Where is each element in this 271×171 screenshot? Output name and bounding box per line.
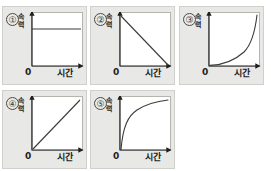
choice-panel-5[interactable]: ⑤ 속력 시간 0 — [90, 90, 175, 169]
curve-svg-3 — [204, 12, 261, 81]
plot-3: 속력 시간 0 — [204, 12, 261, 81]
plot-1: 속력 시간 0 — [27, 12, 84, 81]
choice-panel-4[interactable]: ④ 속력 시간 0 — [2, 90, 87, 169]
y-axis-label-2: 속력 — [103, 13, 114, 29]
plot-4: 속력 시간 0 — [27, 96, 84, 165]
choice-panel-3[interactable]: ③ 속력 시간 0 — [179, 6, 264, 85]
curve-svg-1 — [27, 12, 84, 81]
choice-panel-1[interactable]: ① 속력 시간 0 — [2, 6, 87, 85]
plot-5: 속력 시간 0 — [115, 96, 172, 165]
y-axis-label-5: 속력 — [103, 97, 114, 113]
y-axis-label-3: 속력 — [192, 13, 203, 29]
graph-choice-board: ① 속력 시간 0 ② 속력 시간 0 — [0, 0, 271, 171]
choice-panel-2[interactable]: ② 속력 시간 0 — [90, 6, 175, 85]
plot-2: 속력 시간 0 — [115, 12, 172, 81]
y-axis-label-1: 속력 — [15, 13, 26, 29]
curve-svg-2 — [115, 12, 172, 81]
curve-svg-5 — [115, 96, 172, 165]
y-axis-label-4: 속력 — [15, 97, 26, 113]
curve-svg-4 — [27, 96, 84, 165]
